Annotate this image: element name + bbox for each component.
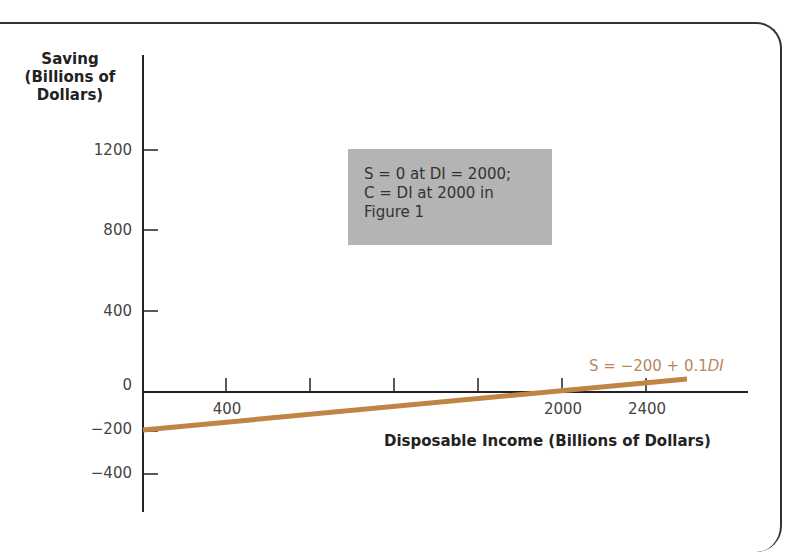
y-tick-neg200: −200 bbox=[91, 420, 132, 438]
saving-equation-label: S = −200 + 0.1DI bbox=[589, 357, 724, 375]
x-tick-400: 400 bbox=[197, 400, 257, 418]
x-tick-2000: 2000 bbox=[533, 400, 593, 418]
annotation-line-1: S = 0 at DI = 2000; bbox=[364, 165, 552, 184]
annotation-box: S = 0 at DI = 2000; C = DI at 2000 in Fi… bbox=[348, 149, 552, 245]
y-tick-0: 0 bbox=[122, 376, 132, 394]
equation-text: S = −200 + 0.1 bbox=[589, 357, 708, 375]
y-tick-800: 800 bbox=[103, 221, 132, 239]
equation-variable: DI bbox=[708, 357, 724, 375]
y-tick-400: 400 bbox=[103, 302, 132, 320]
y-tick-1200: 1200 bbox=[94, 141, 132, 159]
annotation-line-3: Figure 1 bbox=[364, 203, 552, 222]
y-tick-neg400: −400 bbox=[91, 464, 132, 482]
x-tick-2400: 2400 bbox=[617, 400, 677, 418]
annotation-line-2: C = DI at 2000 in bbox=[364, 184, 552, 203]
x-axis-label: Disposable Income (Billions of Dollars) bbox=[384, 432, 711, 450]
y-ticks bbox=[143, 150, 158, 474]
